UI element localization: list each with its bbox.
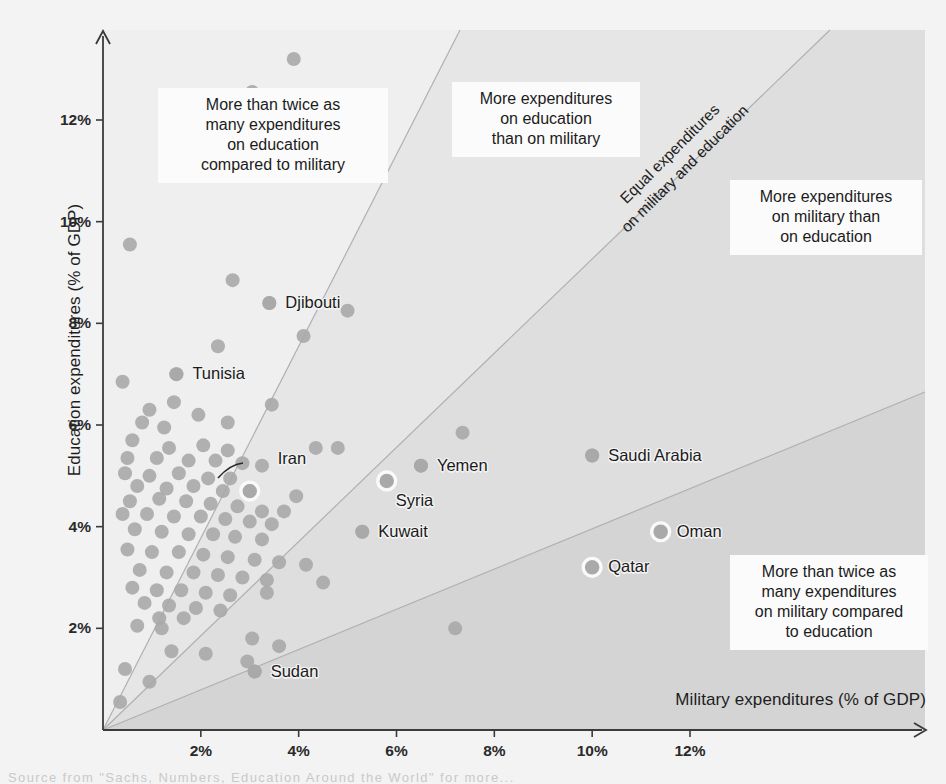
data-point[interactable] — [140, 507, 154, 521]
data-point[interactable] — [223, 588, 237, 602]
data-point[interactable] — [125, 581, 139, 595]
data-point[interactable] — [162, 441, 176, 455]
data-point[interactable] — [248, 553, 262, 567]
data-point[interactable] — [231, 499, 245, 513]
data-point[interactable] — [223, 471, 237, 485]
data-point[interactable] — [255, 532, 269, 546]
data-point-syria[interactable] — [380, 474, 394, 488]
data-point[interactable] — [186, 565, 200, 579]
data-point[interactable] — [123, 238, 137, 252]
data-point[interactable] — [226, 273, 240, 287]
data-point[interactable] — [142, 403, 156, 417]
data-point-qatar[interactable] — [585, 560, 599, 574]
data-point[interactable] — [145, 545, 159, 559]
data-point[interactable] — [167, 510, 181, 524]
data-point-iran[interactable] — [243, 484, 257, 498]
data-point[interactable] — [201, 471, 215, 485]
data-point[interactable] — [116, 507, 130, 521]
data-point[interactable] — [196, 548, 210, 562]
data-point[interactable] — [221, 415, 235, 429]
data-point-oman[interactable] — [654, 525, 668, 539]
data-point[interactable] — [211, 339, 225, 353]
data-point[interactable] — [191, 408, 205, 422]
data-point-yemen[interactable] — [414, 459, 428, 473]
data-point[interactable] — [221, 550, 235, 564]
data-point[interactable] — [199, 586, 213, 600]
data-point[interactable] — [255, 504, 269, 518]
data-point[interactable] — [182, 527, 196, 541]
data-point[interactable] — [142, 675, 156, 689]
data-point[interactable] — [138, 596, 152, 610]
data-point[interactable] — [113, 695, 127, 709]
data-point[interactable] — [172, 466, 186, 480]
data-point[interactable] — [120, 543, 134, 557]
data-point[interactable] — [172, 545, 186, 559]
data-point-sudan[interactable] — [248, 665, 262, 679]
data-point-djibouti[interactable] — [262, 296, 276, 310]
data-point[interactable] — [142, 469, 156, 483]
data-point[interactable] — [182, 454, 196, 468]
data-point[interactable] — [287, 52, 301, 66]
data-point[interactable] — [120, 451, 134, 465]
data-point[interactable] — [155, 621, 169, 635]
data-point[interactable] — [341, 304, 355, 318]
data-point[interactable] — [243, 515, 257, 529]
data-point[interactable] — [297, 329, 311, 343]
data-point[interactable] — [221, 443, 235, 457]
data-point[interactable] — [118, 466, 132, 480]
data-point[interactable] — [162, 598, 176, 612]
data-point[interactable] — [150, 583, 164, 597]
data-point[interactable] — [179, 494, 193, 508]
data-point[interactable] — [189, 601, 203, 615]
data-point[interactable] — [155, 525, 169, 539]
data-point-kuwait[interactable] — [355, 525, 369, 539]
data-point[interactable] — [218, 512, 232, 526]
data-point[interactable] — [228, 530, 242, 544]
data-point[interactable] — [255, 459, 269, 473]
data-point[interactable] — [177, 611, 191, 625]
data-point[interactable] — [272, 555, 286, 569]
data-point-saudi-arabia[interactable] — [585, 449, 599, 463]
data-point-tunisia[interactable] — [169, 367, 183, 381]
data-point[interactable] — [128, 522, 142, 536]
data-point[interactable] — [272, 639, 286, 653]
data-point[interactable] — [199, 647, 213, 661]
data-point[interactable] — [211, 568, 225, 582]
data-point[interactable] — [167, 395, 181, 409]
data-point[interactable] — [123, 494, 137, 508]
data-point[interactable] — [135, 415, 149, 429]
data-point[interactable] — [216, 484, 230, 498]
data-point[interactable] — [196, 438, 210, 452]
data-point[interactable] — [130, 479, 144, 493]
data-point[interactable] — [245, 632, 259, 646]
data-point[interactable] — [277, 504, 291, 518]
data-point[interactable] — [309, 441, 323, 455]
data-point[interactable] — [194, 510, 208, 524]
data-point[interactable] — [152, 492, 166, 506]
data-point[interactable] — [164, 644, 178, 658]
data-point[interactable] — [209, 454, 223, 468]
data-point[interactable] — [299, 558, 313, 572]
data-point[interactable] — [448, 621, 462, 635]
data-point[interactable] — [456, 426, 470, 440]
data-point[interactable] — [150, 451, 164, 465]
data-point[interactable] — [157, 421, 171, 435]
data-point[interactable] — [206, 527, 220, 541]
data-point[interactable] — [204, 497, 218, 511]
data-point[interactable] — [265, 517, 279, 531]
data-point[interactable] — [316, 576, 330, 590]
data-point[interactable] — [265, 398, 279, 412]
data-point[interactable] — [160, 565, 174, 579]
data-point[interactable] — [118, 662, 132, 676]
data-point[interactable] — [116, 375, 130, 389]
data-point[interactable] — [174, 583, 188, 597]
data-point[interactable] — [125, 433, 139, 447]
data-point[interactable] — [130, 619, 144, 633]
data-point[interactable] — [260, 586, 274, 600]
data-point[interactable] — [213, 604, 227, 618]
data-point[interactable] — [331, 441, 345, 455]
data-point[interactable] — [133, 563, 147, 577]
data-point[interactable] — [235, 571, 249, 585]
data-point[interactable] — [186, 479, 200, 493]
data-point[interactable] — [289, 489, 303, 503]
